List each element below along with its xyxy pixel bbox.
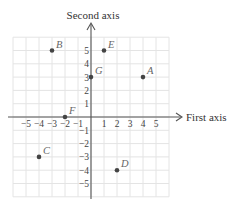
point-marker-icon (63, 115, 68, 120)
y-tick-label: −4 (79, 166, 89, 176)
x-tick-label: 1 (102, 119, 107, 129)
point-label: E (107, 39, 115, 50)
x-tick-label: −5 (21, 119, 31, 129)
y-tick-label: 1 (84, 99, 89, 109)
y-tick-label: −5 (79, 179, 89, 189)
y-tick-label: 3 (84, 73, 89, 83)
points: ABCDEFG (37, 39, 154, 173)
point-marker-icon (37, 155, 42, 160)
point-marker-icon (115, 168, 120, 173)
point-marker-icon (50, 48, 55, 53)
point-label: G (95, 65, 103, 76)
point-label: F (68, 105, 76, 116)
x-tick-label: −2 (60, 119, 70, 129)
point-marker-icon (141, 75, 146, 80)
y-tick-label: −1 (79, 126, 89, 136)
y-tick-label: 5 (84, 46, 89, 56)
x-tick-label: −4 (34, 119, 44, 129)
x-tick-label: 4 (141, 119, 146, 129)
point-label: D (120, 158, 129, 169)
point-marker-icon (89, 75, 94, 80)
x-tick-label: 2 (115, 119, 120, 129)
y-tick-label: −2 (79, 139, 89, 149)
y-axis-title: Second axis (67, 9, 120, 21)
x-tick-label: 5 (154, 119, 159, 129)
y-tick-label: −3 (79, 152, 89, 162)
x-tick-label: −3 (47, 119, 57, 129)
x-tick-label: 3 (128, 119, 133, 129)
point-label: C (43, 145, 51, 156)
x-tick-labels: −5−4−3−2−112345 (21, 119, 159, 129)
y-tick-label: 4 (84, 59, 89, 69)
point-label: B (56, 39, 63, 50)
point-label: A (146, 65, 154, 76)
point-marker-icon (102, 48, 107, 53)
x-axis-title: First axis (186, 111, 227, 123)
coordinate-plane: First axis Second axis −5−4−3−2−112345 5… (0, 0, 236, 212)
y-tick-label: 2 (84, 86, 89, 96)
